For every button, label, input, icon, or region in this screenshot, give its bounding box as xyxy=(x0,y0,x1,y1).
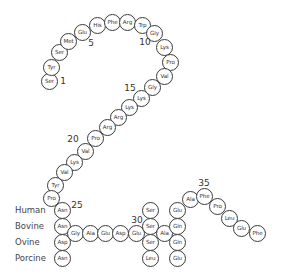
residue-31-porcine: Leu xyxy=(142,250,159,267)
position-marker-35: 35 xyxy=(198,179,209,188)
species-label-ovine: Ovine xyxy=(15,238,40,247)
residue-2: Tyr xyxy=(43,59,60,76)
residue-33-porcine: Glu xyxy=(169,250,186,267)
residue-31-human: Ser xyxy=(142,202,159,219)
residue-25-human: Asn xyxy=(54,202,71,219)
position-marker-30: 30 xyxy=(131,216,142,225)
species-label-bovine: Bovine xyxy=(15,222,44,231)
residue-39: Phe xyxy=(249,225,266,242)
species-label-porcine: Porcine xyxy=(15,254,46,263)
position-marker-15: 15 xyxy=(124,84,135,93)
position-marker-1: 1 xyxy=(60,77,66,86)
position-marker-10: 10 xyxy=(139,38,150,47)
species-label-human: Human xyxy=(15,206,46,215)
residue-29: Asp xyxy=(112,225,129,242)
residue-38: Glu xyxy=(233,220,250,237)
position-marker-25: 25 xyxy=(71,201,82,210)
residue-33-ovine: Gln xyxy=(169,234,186,251)
position-marker-20: 20 xyxy=(67,135,78,144)
residue-25-porcine: Asn xyxy=(54,250,71,267)
peptide-sequence-diagram: SerTyrSerMetGluHisPheArgTrpGlyLysProValG… xyxy=(0,0,281,277)
position-marker-5: 5 xyxy=(88,39,94,48)
residue-33-bovine: Gln xyxy=(169,218,186,235)
